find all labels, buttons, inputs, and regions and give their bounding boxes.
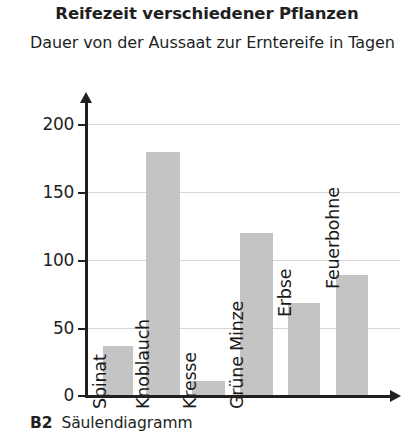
chart-plot-area: 200 150 100 50 0 Spinat Knoblauch Kresse…: [0, 0, 414, 410]
ytick-label-200: 200: [4, 114, 74, 134]
bar-label-kresse: Kresse: [180, 352, 200, 409]
gridline-200: [87, 124, 400, 125]
bar-label-erbse: Erbse: [275, 269, 295, 317]
ytick-label-100: 100: [4, 250, 74, 270]
bar-label-gruene-minze: Grüne Minze: [227, 301, 247, 409]
gridline-150: [87, 192, 400, 193]
y-axis-line: [85, 100, 88, 397]
y-axis-arrow-icon: [80, 92, 92, 103]
bar-label-spinat: Spinat: [90, 354, 110, 409]
ytick-label-0: 0: [4, 385, 74, 405]
ytick-label-150: 150: [4, 182, 74, 202]
bar-feuerbohne: [336, 275, 368, 396]
ytick-label-50: 50: [4, 318, 74, 338]
figure-id: B2: [30, 414, 52, 432]
x-axis-arrow-icon: [390, 390, 401, 402]
figure-caption: B2Säulendiagramm: [30, 414, 192, 432]
bar-label-feuerbohne: Feuerbohne: [323, 187, 343, 289]
x-axis-line: [85, 395, 393, 398]
figure-caption-text: Säulendiagramm: [61, 414, 192, 432]
